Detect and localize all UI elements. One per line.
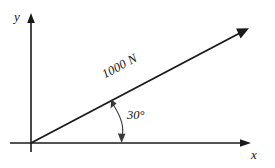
y-axis-label: y: [14, 10, 20, 23]
angle-arc-upper-arrowhead-icon: [111, 100, 117, 109]
angle-arc-lower-arrowhead-icon: [118, 133, 126, 143]
x-axis-label: x: [251, 148, 257, 161]
y-axis-arrowhead-icon: [27, 13, 35, 23]
x-axis-arrowhead-icon: [240, 139, 251, 147]
force-vector-line: [31, 34, 239, 144]
angle-label: 30°: [127, 109, 145, 122]
angle-arc: [114, 105, 123, 136]
force-vector-diagram: y x 30° 1000 N: [0, 0, 275, 168]
diagram-canvas: [0, 0, 275, 168]
